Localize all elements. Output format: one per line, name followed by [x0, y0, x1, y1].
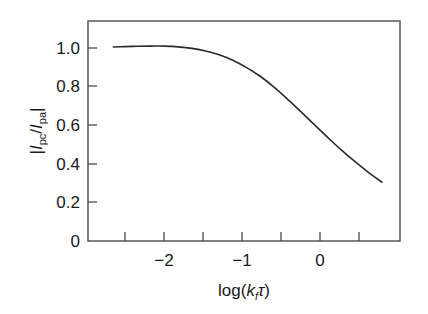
- x-tick-label-zero: 0: [315, 251, 324, 270]
- y-axis-title-subscript-pa: pa: [36, 111, 48, 124]
- y-tick-label-0-8: 0.8: [56, 77, 80, 96]
- y-tick-label-0: 0: [71, 232, 80, 251]
- y-tick-label-0-4: 0.4: [56, 155, 80, 174]
- x-tick-label-minus1: −1: [232, 251, 251, 270]
- x-axis-title-func: log(: [218, 281, 247, 300]
- chart-svg: 1.0 0.8 0.6 0.4 0.2 0 −2 −1 0 log(kfτ) |…: [0, 0, 428, 314]
- x-axis-title-close: ): [264, 281, 270, 300]
- x-axis-title: log(kfτ): [218, 281, 270, 302]
- x-tick-label-minus2: −2: [154, 251, 173, 270]
- y-tick-label-0-6: 0.6: [56, 116, 80, 135]
- y-axis-title-bar-close: |: [27, 108, 46, 112]
- y-axis-title-subscript-pc: pc: [36, 133, 48, 145]
- data-curve: [113, 46, 382, 182]
- y-tick-label-0-2: 0.2: [56, 193, 80, 212]
- y-axis-ticks: [88, 48, 97, 202]
- chart-figure: 1.0 0.8 0.6 0.4 0.2 0 −2 −1 0 log(kfτ) |…: [0, 0, 428, 314]
- y-tick-label-1-0: 1.0: [56, 39, 80, 58]
- plot-frame: [88, 21, 400, 241]
- x-axis-ticks: [125, 232, 359, 241]
- y-axis-title: |Ipc/Ipa|: [27, 108, 48, 155]
